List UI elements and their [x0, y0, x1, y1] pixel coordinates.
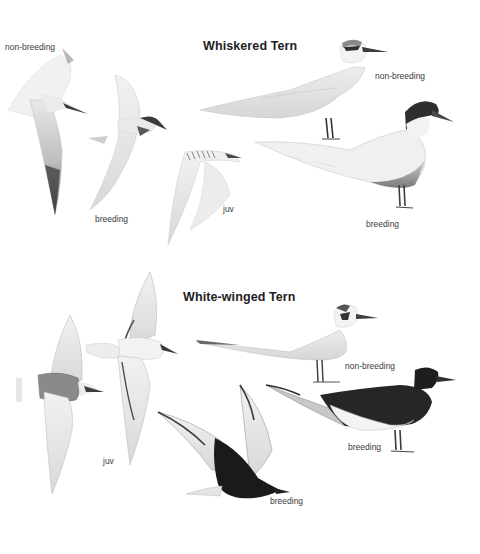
white-winged-tern-standing-breeding — [266, 367, 456, 452]
species-title-whiskered-tern: Whiskered Tern — [203, 39, 297, 53]
whiskered-tern-standing-nonbreeding — [200, 40, 388, 139]
label-whiskered-flight-breeding: breeding — [95, 214, 128, 224]
label-whiskered-standing-nonbreeding: non-breeding — [375, 71, 425, 81]
label-white-winged-flight-breeding: breeding — [270, 496, 303, 506]
label-white-winged-standing-breeding: breeding — [348, 442, 381, 452]
label-whiskered-flight-juv: juv — [223, 204, 234, 214]
white-winged-tern-flight-juv-b — [86, 272, 178, 465]
label-whiskered-flight-nonbreeding: non-breeding — [5, 42, 55, 52]
label-white-winged-standing-nonbreeding: non-breeding — [345, 361, 395, 371]
label-whiskered-standing-breeding: breeding — [366, 219, 399, 229]
label-white-winged-flight-juv: juv — [103, 456, 114, 466]
whiskered-tern-flight-breeding — [88, 75, 167, 210]
whiskered-tern-flight-juv — [168, 151, 242, 245]
tern-illustrations — [0, 0, 480, 554]
white-winged-tern-flight-juv-a — [16, 315, 104, 494]
whiskered-tern-flight-nonbreeding — [8, 48, 88, 215]
field-guide-plate: Whiskered Tern White-winged Tern non-bre… — [0, 0, 480, 554]
white-winged-tern-flight-breeding — [158, 385, 290, 498]
species-title-white-winged-tern: White-winged Tern — [183, 290, 296, 304]
